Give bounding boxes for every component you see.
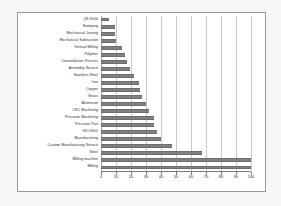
category-label: Copper	[86, 88, 98, 92]
x-tick-label: 60	[189, 175, 193, 179]
category-label: Milling	[87, 165, 98, 169]
x-tick-label: 20	[129, 175, 133, 179]
bar	[101, 60, 127, 64]
category-label: CNC Machining	[72, 109, 98, 113]
bar	[101, 32, 115, 36]
category-axis-labels: QS 9000StampingMechanical JoiningMechani…	[20, 16, 100, 171]
bar	[101, 39, 116, 43]
bar-row	[101, 46, 251, 50]
bar	[101, 18, 109, 22]
bar	[101, 158, 251, 162]
bar-row	[101, 166, 251, 170]
bar	[101, 67, 130, 71]
plot-wrapper: QS 9000StampingMechanical JoiningMechani…	[18, 13, 265, 191]
bar	[101, 46, 122, 50]
bar	[101, 123, 154, 127]
category-label: Brass	[89, 95, 98, 99]
bar-row	[101, 116, 251, 120]
bar-row	[101, 53, 251, 57]
bar	[101, 144, 172, 148]
category-label: Polymer	[84, 53, 98, 57]
x-tick-label: 10	[114, 175, 118, 179]
x-tick-label: 80	[219, 175, 223, 179]
category-label: Precision Machining	[65, 116, 98, 120]
category-label: Stainless Steel	[73, 74, 98, 78]
category-label: Consolidation Process	[61, 60, 98, 64]
category-label: ISO 9001	[82, 130, 98, 134]
bar	[101, 88, 140, 92]
bar-row	[101, 74, 251, 78]
category-label: Manufacturing	[75, 137, 98, 141]
bar	[101, 25, 115, 29]
bar	[101, 151, 202, 155]
category-label: Steel	[90, 151, 98, 155]
bar-row	[101, 144, 251, 148]
bar-row	[101, 130, 251, 134]
category-label: QS 9000	[83, 18, 98, 22]
bar	[101, 81, 139, 85]
bar-row	[101, 25, 251, 29]
bar-row	[101, 88, 251, 92]
bar-row	[101, 109, 251, 113]
screenshot-canvas: QS 9000StampingMechanical JoiningMechani…	[0, 0, 281, 206]
bar-row	[101, 32, 251, 36]
chart-frame: QS 9000StampingMechanical JoiningMechani…	[17, 12, 266, 192]
x-tick-label: 70	[204, 175, 208, 179]
bar	[101, 102, 146, 106]
bar	[101, 166, 251, 170]
x-tick-label: 0	[100, 175, 102, 179]
bar-row	[101, 123, 251, 127]
bar	[101, 74, 134, 78]
category-label: Stamping	[82, 25, 98, 29]
category-label: Assembly Service	[69, 67, 98, 71]
x-tick-label: 100	[248, 175, 255, 179]
bar	[101, 116, 154, 120]
bar-row	[101, 137, 251, 141]
x-tick-label: 30	[144, 175, 148, 179]
category-label: Precision Part	[75, 123, 98, 127]
category-label: Vertical Milling	[74, 46, 98, 50]
category-label: Milling machine	[72, 158, 98, 162]
bar-row	[101, 81, 251, 85]
bar-row	[101, 60, 251, 64]
x-axis-tick-labels: 0102030405060708090100	[101, 175, 251, 185]
category-label: Mechanical Subtraction	[60, 39, 98, 43]
bar	[101, 137, 161, 141]
gridline	[251, 16, 252, 171]
category-label: Custom Manufacturing Service	[47, 144, 98, 148]
plot-area	[101, 16, 251, 171]
bar	[101, 130, 157, 134]
x-tick-label: 40	[159, 175, 163, 179]
x-tick-label: 90	[234, 175, 238, 179]
bar-row	[101, 39, 251, 43]
bar-row	[101, 18, 251, 22]
category-label: Mechanical Joining	[67, 32, 98, 36]
bar-row	[101, 102, 251, 106]
bar	[101, 95, 142, 99]
bar-row	[101, 158, 251, 162]
x-tick-label: 50	[174, 175, 178, 179]
bar-row	[101, 151, 251, 155]
category-label: Iron	[92, 81, 98, 85]
bar-row	[101, 67, 251, 71]
category-label: Aluminum	[82, 102, 98, 106]
bar	[101, 53, 125, 57]
bar-row	[101, 95, 251, 99]
bar	[101, 109, 149, 113]
